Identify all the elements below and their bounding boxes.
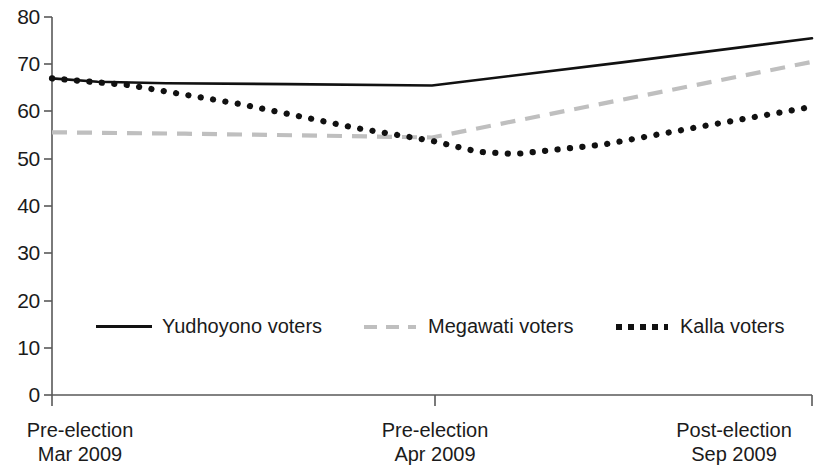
legend-item-yudhoyono[interactable]: Yudhoyono voters bbox=[96, 311, 322, 341]
x-axis-label-group-1: Pre-election Mar 2009 bbox=[0, 419, 160, 466]
x-axis-label-1-line2: Mar 2009 bbox=[0, 443, 160, 467]
series-layer bbox=[52, 38, 812, 154]
x-axis-label-group-3: Post-election Sep 2009 bbox=[654, 419, 814, 466]
chart-container: 80 70 60 50 40 30 20 10 0 bbox=[0, 0, 814, 473]
legend-dashed-line-icon bbox=[362, 316, 418, 336]
legend-label-kalla: Kalla voters bbox=[680, 315, 785, 338]
x-axis-label-1-line1: Pre-election bbox=[0, 419, 160, 443]
x-axis-label-3-line2: Sep 2009 bbox=[654, 443, 814, 467]
legend-label-yudhoyono: Yudhoyono voters bbox=[162, 315, 322, 338]
legend-item-megawati[interactable]: Megawati voters bbox=[362, 311, 574, 341]
series-line-kalla bbox=[52, 78, 812, 154]
plot-area bbox=[0, 0, 814, 473]
legend-dotted-line-icon bbox=[614, 316, 670, 336]
x-axis-ticks bbox=[52, 395, 812, 406]
x-axis-label-group-2: Pre-election Apr 2009 bbox=[355, 419, 515, 466]
y-axis-ticks bbox=[44, 17, 52, 395]
x-axis-label-3-line1: Post-election bbox=[654, 419, 814, 443]
series-line-yudhoyono bbox=[52, 38, 812, 85]
legend-label-megawati: Megawati voters bbox=[428, 315, 574, 338]
series-line-megawati bbox=[52, 62, 812, 138]
x-axis-label-2-line1: Pre-election bbox=[355, 419, 515, 443]
legend-solid-line-icon bbox=[96, 316, 152, 336]
chart-legend: Yudhoyono voters Megawati voters Kalla v… bbox=[96, 311, 796, 341]
legend-item-kalla[interactable]: Kalla voters bbox=[614, 311, 785, 341]
x-axis-label-2-line2: Apr 2009 bbox=[355, 443, 515, 467]
